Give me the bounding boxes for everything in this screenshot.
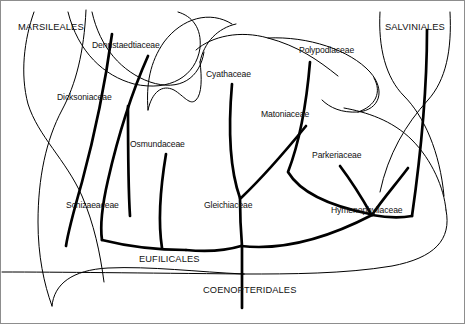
branch-eufilicales-spine-left — [186, 246, 241, 251]
branch-dicksoniaceae-stem — [128, 106, 130, 216]
family-label-cyathaceae: Cyathaceae — [206, 70, 251, 79]
branch-cyathaceae-stem — [230, 84, 240, 198]
branch-salviniales-right — [380, 12, 450, 192]
family-label-parkeriaceae: Parkeriaceae — [312, 151, 361, 160]
family-label-dennstaedtiaceae: Dennstaedtiaceae — [92, 41, 160, 50]
branch-polypodiaceae-loop-inner — [358, 78, 377, 112]
order-label-marsileales: MARSILEALES — [18, 23, 84, 32]
branch-marsileales-inner-left — [38, 10, 86, 306]
family-label-polypodiaceae: Polypodiaceae — [299, 46, 354, 55]
family-label-schizaeaceae: Schizaeaceae — [66, 201, 119, 210]
branch-eufilicales-spine-right — [241, 215, 372, 247]
order-label-coenopteridales: COENOPTERIDALES — [203, 286, 296, 295]
branch-matoniaceae-stem — [241, 126, 306, 198]
phylogenetic-tree-svg — [0, 0, 466, 325]
order-label-salviniales: SALVINIALES — [385, 23, 445, 32]
family-label-matoniaceae: Matoniaceae — [261, 110, 309, 119]
family-label-osmundaceae: Osmundaceae — [130, 140, 185, 149]
family-label-hymenophyllaceae: Hymenophyllaceae — [331, 206, 403, 215]
branch-schizaeaceae-stem — [102, 240, 186, 250]
branch-eufilicales-spine-far-right — [372, 215, 412, 217]
family-label-dicksoniaceae: Dicksoniaceae — [57, 93, 112, 102]
figure-canvas: MARSILEALES SALVINIALES EUFILICALES COEN… — [0, 0, 466, 325]
order-label-eufilicales: EUFILICALES — [139, 255, 200, 264]
branch-salviniales-left — [380, 12, 444, 196]
branch-salviniales-stem — [412, 30, 427, 216]
family-label-gleichiaceae: Gleichiaceae — [204, 201, 252, 210]
branch-osmundaceae-stem — [160, 154, 166, 248]
branch-right-outer-sweep — [244, 210, 447, 274]
